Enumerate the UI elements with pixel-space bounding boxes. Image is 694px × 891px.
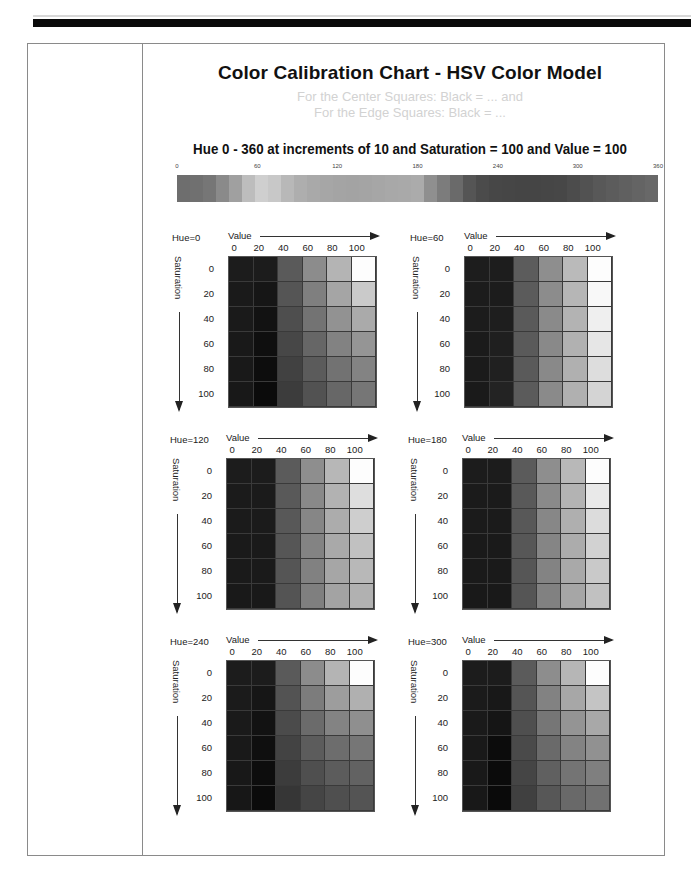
hue-swatch xyxy=(255,175,268,202)
grid-cell xyxy=(537,786,562,811)
value-axis-label: Value xyxy=(464,230,488,241)
hue-tick-label: 0 xyxy=(175,163,178,169)
hue-swatch xyxy=(502,175,515,202)
grid-cell xyxy=(325,761,350,786)
grid-cell xyxy=(512,786,537,811)
grid-cell xyxy=(303,307,328,332)
grid-cell xyxy=(586,786,611,811)
grid-cell xyxy=(465,332,490,357)
grid-cell xyxy=(563,332,588,357)
grid-cell xyxy=(588,382,613,407)
hue-swatch xyxy=(307,175,320,202)
value-axis-label: Value xyxy=(462,432,486,443)
grid-cell xyxy=(465,257,490,282)
grid-cell xyxy=(588,357,613,382)
hue-label: Hue=240 xyxy=(170,636,209,647)
grid-cell xyxy=(537,711,562,736)
grid-cell xyxy=(301,484,326,509)
value-tick: 100 xyxy=(579,646,604,657)
value-axis-arrow-icon xyxy=(260,236,378,237)
grid-cell xyxy=(254,257,279,282)
grid-cell xyxy=(303,382,328,407)
hue-swatch xyxy=(580,175,593,202)
grid-cell xyxy=(488,786,513,811)
hue-tick-label: 300 xyxy=(573,163,583,169)
grid-cell xyxy=(539,332,564,357)
grid-cell xyxy=(586,736,611,761)
grid-cell xyxy=(463,661,488,686)
hue-swatch xyxy=(229,175,242,202)
hue-swatch xyxy=(203,175,216,202)
saturation-tick: 20 xyxy=(194,281,214,306)
grid-cell xyxy=(514,282,539,307)
hue-swatch xyxy=(593,175,606,202)
grid-cell xyxy=(463,509,488,534)
grid-cell xyxy=(252,686,277,711)
grid-cell xyxy=(227,736,252,761)
grid-cell xyxy=(488,711,513,736)
saturation-tick: 80 xyxy=(428,760,448,785)
hue-swatch xyxy=(567,175,580,202)
saturation-ticks: 020406080100 xyxy=(428,660,448,810)
grid-cell xyxy=(327,307,352,332)
grid-cell xyxy=(350,509,375,534)
saturation-tick: 60 xyxy=(428,533,448,558)
value-tick: 20 xyxy=(247,242,272,253)
saturation-tick: 60 xyxy=(194,331,214,356)
grid-cell xyxy=(301,686,326,711)
grid-cell xyxy=(514,332,539,357)
grid-cell xyxy=(301,711,326,736)
grid-cell xyxy=(465,357,490,382)
hue-swatch xyxy=(619,175,632,202)
grid-cell xyxy=(514,357,539,382)
grid-cell xyxy=(465,282,490,307)
grid-cell xyxy=(512,736,537,761)
hue-swatch xyxy=(333,175,346,202)
saturation-tick: 20 xyxy=(430,281,450,306)
value-tick: 60 xyxy=(532,242,557,253)
grid-cell xyxy=(327,382,352,407)
grid-cell xyxy=(227,459,252,484)
grid-cell xyxy=(350,761,375,786)
grid-cell xyxy=(512,584,537,609)
hue-swatch xyxy=(554,175,567,202)
value-tick: 0 xyxy=(222,242,247,253)
saturation-tick: 80 xyxy=(192,558,212,583)
hue-swatch xyxy=(372,175,385,202)
saturation-tick: 100 xyxy=(192,583,212,608)
grid-cell xyxy=(488,534,513,559)
grid-cell xyxy=(561,534,586,559)
value-tick: 40 xyxy=(505,646,530,657)
hue-swatch xyxy=(528,175,541,202)
grid-cell xyxy=(561,509,586,534)
grid-cell xyxy=(537,584,562,609)
grid-cell xyxy=(350,786,375,811)
value-tick: 60 xyxy=(296,242,321,253)
saturation-axis-arrow-icon xyxy=(179,312,180,410)
grid-cell xyxy=(325,736,350,761)
grid-cell xyxy=(227,786,252,811)
saturation-tick: 60 xyxy=(192,735,212,760)
hsv-grid-hue-60: Hue=60Value020406080100Saturation0204060… xyxy=(410,226,650,426)
grid-cell xyxy=(537,559,562,584)
saturation-tick: 60 xyxy=(192,533,212,558)
grid-cell xyxy=(227,559,252,584)
grid-cell xyxy=(325,534,350,559)
saturation-ticks: 020406080100 xyxy=(192,660,212,810)
saturation-tick: 100 xyxy=(194,381,214,406)
grid-cell xyxy=(488,484,513,509)
hue-swatch xyxy=(450,175,463,202)
saturation-axis-arrow-icon xyxy=(177,716,178,814)
grid-cell xyxy=(586,686,611,711)
grid-cell xyxy=(301,534,326,559)
saturation-tick: 20 xyxy=(192,685,212,710)
hue-tick-label: 180 xyxy=(412,163,422,169)
grid-cell xyxy=(301,509,326,534)
hue-swatch xyxy=(515,175,528,202)
grid-cell xyxy=(227,686,252,711)
grid-cell xyxy=(539,307,564,332)
value-ticks: 020406080100 xyxy=(220,444,367,455)
value-ticks: 020406080100 xyxy=(458,242,605,253)
grid-cell xyxy=(512,534,537,559)
grid-cell xyxy=(463,534,488,559)
